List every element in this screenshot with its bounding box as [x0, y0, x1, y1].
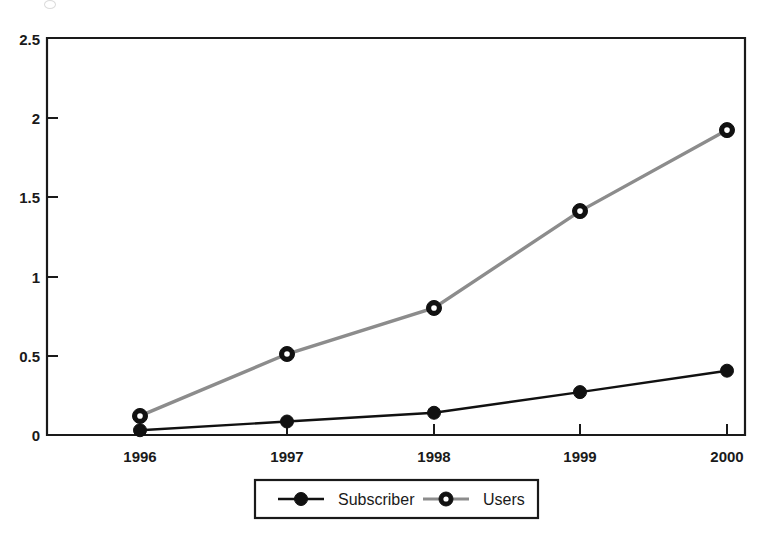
y-axis-label-0-5: 0.5 — [19, 348, 40, 365]
legend-marker-subscriber — [295, 493, 308, 506]
data-point-users-center-1998 — [431, 305, 437, 311]
data-point-subscriber-1998[interactable] — [428, 406, 441, 419]
data-point-subscriber-2000[interactable] — [721, 364, 734, 377]
y-axis-ticks — [47, 38, 58, 435]
series-users — [133, 123, 735, 424]
x-axis-label-1998: 1998 — [417, 448, 450, 465]
data-point-subscriber-1997[interactable] — [281, 415, 294, 428]
series-line-users — [140, 130, 727, 416]
line-chart: 0 0.5 1 1.5 2 2.5 1996 1997 1998 1999 20… — [0, 0, 769, 549]
x-axis-label-1999: 1999 — [563, 448, 596, 465]
x-axis-labels: 1996 1997 1998 1999 2000 — [123, 448, 743, 465]
legend-entry-subscriber[interactable]: Subscriber — [278, 491, 415, 508]
y-axis-label-0: 0 — [32, 427, 40, 444]
data-point-subscriber-1999[interactable] — [574, 386, 587, 399]
x-axis-label-2000: 2000 — [710, 448, 743, 465]
y-axis-label-1-5: 1.5 — [19, 189, 40, 206]
legend-label-subscriber: Subscriber — [338, 491, 415, 508]
x-axis-label-1996: 1996 — [123, 448, 156, 465]
legend-marker-users-center — [443, 496, 448, 501]
chart-legend: Subscriber Users — [255, 480, 538, 518]
data-point-users-center-1997 — [284, 351, 290, 357]
y-axis-label-2: 2 — [32, 110, 40, 127]
data-point-subscriber-1996[interactable] — [134, 424, 147, 437]
legend-label-users: Users — [483, 491, 525, 508]
x-axis-label-1997: 1997 — [270, 448, 303, 465]
data-point-users-center-1999 — [577, 208, 583, 214]
y-axis-labels: 0 0.5 1 1.5 2 2.5 — [19, 31, 40, 444]
y-axis-label-1: 1 — [32, 269, 40, 286]
chart-page: 0 0.5 1 1.5 2 2.5 1996 1997 1998 1999 20… — [0, 0, 769, 549]
data-point-users-center-1996 — [137, 413, 143, 419]
data-point-users-center-2000 — [724, 127, 730, 133]
plot-border — [47, 38, 745, 435]
plot-frame — [47, 38, 745, 435]
y-axis-label-2-5: 2.5 — [19, 31, 40, 48]
